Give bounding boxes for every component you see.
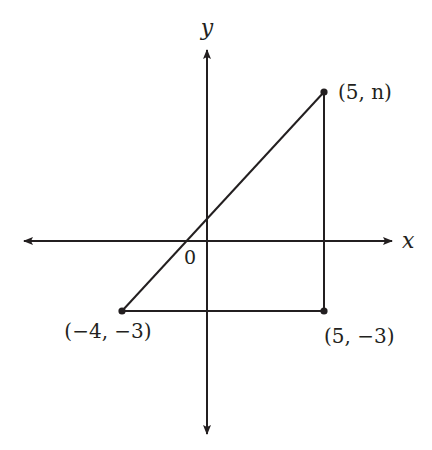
origin-label: 0 xyxy=(184,246,196,268)
point-top-right xyxy=(320,88,327,95)
coordinate-plane: y x 0 (5, n) (5, −3) (−4, −3) xyxy=(0,0,432,450)
point-label-bottom-left: (−4, −3) xyxy=(64,319,151,343)
point-label-top-right: (5, n) xyxy=(338,80,392,104)
point-label-bottom-right: (5, −3) xyxy=(324,324,395,348)
hypotenuse-segment xyxy=(122,92,324,311)
x-axis-label: x xyxy=(402,228,415,253)
point-bottom-right xyxy=(320,307,327,314)
point-bottom-left xyxy=(118,307,125,314)
y-axis-label: y xyxy=(200,15,214,40)
